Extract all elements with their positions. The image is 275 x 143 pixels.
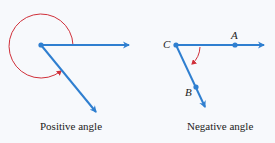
caption-positive-angle: Positive angle bbox=[40, 120, 102, 132]
label-b: B bbox=[185, 86, 192, 98]
label-c: C bbox=[163, 38, 170, 50]
negative-rotation-arc bbox=[192, 47, 200, 64]
point-c bbox=[173, 42, 178, 47]
point-b bbox=[193, 84, 198, 89]
terminal-ray bbox=[41, 45, 96, 112]
caption-negative-angle: Negative angle bbox=[187, 120, 253, 132]
point-a bbox=[232, 42, 237, 47]
label-a: A bbox=[231, 29, 238, 41]
positive-angle-figure bbox=[9, 14, 129, 112]
vertex-point bbox=[38, 42, 43, 47]
